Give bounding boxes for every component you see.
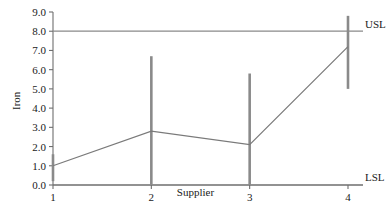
usl-reference-label: USL	[365, 19, 386, 30]
x-axis-title: Supplier	[0, 187, 381, 198]
y-axis-tick-label: 3.0	[13, 122, 46, 133]
y-axis-tick-label: 7.0	[13, 45, 46, 56]
y-axis-title: Iron	[11, 92, 22, 110]
y-axis-tick-label: 6.0	[13, 64, 46, 75]
y-axis-tick-label: 2.0	[13, 141, 46, 152]
y-axis-tick-label: 8.0	[13, 26, 46, 37]
lsl-reference-label: LSL	[365, 172, 385, 183]
mean-line	[53, 47, 348, 166]
y-axis-tick-label: 1.0	[13, 160, 46, 171]
y-axis-tick-label: 9.0	[13, 7, 46, 18]
